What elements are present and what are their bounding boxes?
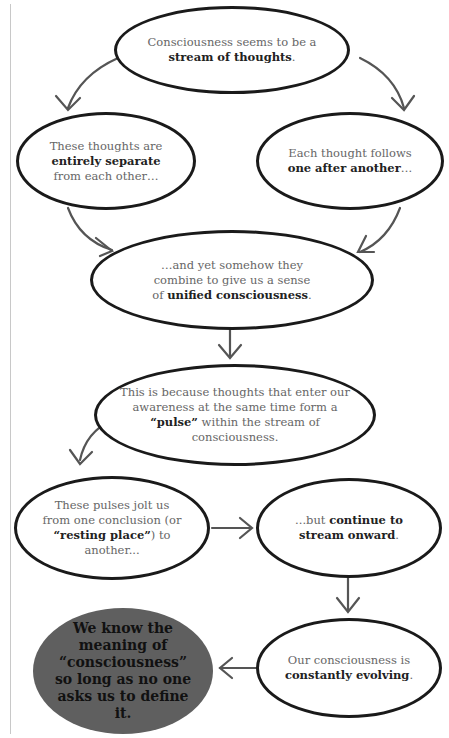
- node-pulse: This is because thoughts that enter our …: [94, 364, 376, 466]
- node-constantly-evolving: Our consciousness is constantly evolving…: [256, 618, 442, 718]
- node-stream-onward: ...but continue to stream onward.: [256, 478, 442, 578]
- node-define-it-quote: We know the meaning of “consciousness” s…: [33, 608, 213, 734]
- node-stream-of-thoughts: Consciousness seems to be a stream of th…: [114, 6, 350, 94]
- node-unified-consciousness: …and yet somehow they combine to give us…: [90, 230, 374, 330]
- node-entirely-separate: These thoughts are entirely separate fro…: [16, 112, 196, 210]
- node-one-after-another: Each thought follows one after another…: [256, 112, 444, 210]
- node-resting-place: These pulses jolt us from one conclusion…: [14, 476, 210, 580]
